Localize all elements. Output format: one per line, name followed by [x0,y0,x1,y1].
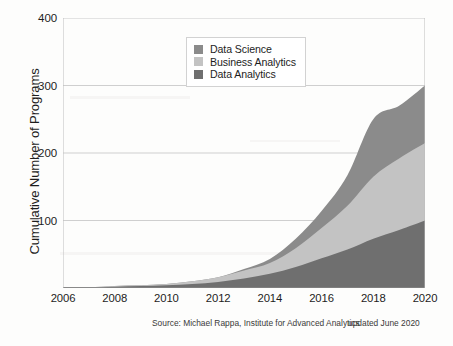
chart-legend: Data Science Business Analytics Data Ana… [186,37,306,87]
legend-label-business-analytics: Business Analytics [210,56,296,68]
y-tick-label-100: 100 [15,215,57,227]
legend-item-business-analytics[interactable]: Business Analytics [194,56,296,69]
x-tick-label-2018: 2018 [349,292,397,304]
updated-note: updated June 2020 [348,318,420,328]
source-note: Source: Michael Rappa, Institute for Adv… [152,318,360,328]
legend-label-data-analytics: Data Analytics [210,68,276,80]
x-tick-label-2014: 2014 [246,292,294,304]
x-tick-label-2010: 2010 [142,292,190,304]
area-layers [63,86,425,289]
y-tick-label-300: 300 [15,80,57,92]
y-tick-label-400: 400 [15,12,57,24]
y-tick-label-200: 200 [15,147,57,159]
x-tick-label-2006: 2006 [39,292,87,304]
x-axis-tick-labels: 20062008201020122014201620182020 [63,292,425,308]
legend-swatch-business-analytics [194,57,203,66]
legend-swatch-data-analytics [194,70,203,79]
legend-item-data-science[interactable]: Data Science [194,43,296,56]
x-tick-label-2016: 2016 [298,292,346,304]
chart-footer: Source: Michael Rappa, Institute for Adv… [0,318,453,332]
legend-label-data-science: Data Science [210,43,272,55]
x-tick-label-2020: 2020 [401,292,449,304]
chart-figure: Cumulative Number of Programs 400 300 20… [0,0,453,346]
x-tick-label-2012: 2012 [194,292,242,304]
legend-item-data-analytics[interactable]: Data Analytics [194,68,296,81]
legend-swatch-data-science [194,45,203,54]
x-tick-label-2008: 2008 [91,292,139,304]
